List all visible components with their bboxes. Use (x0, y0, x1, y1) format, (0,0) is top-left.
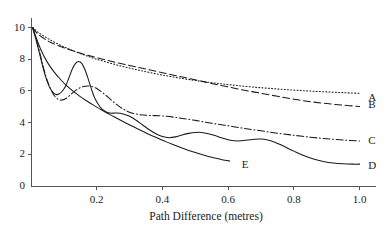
y-tick-2: 2 (20, 148, 26, 159)
x-tick-1.0: 1.0 (340, 194, 380, 205)
y-tick-8: 8 (20, 53, 26, 64)
series-curve-A (33, 28, 360, 94)
x-tick-0.6: 0.6 (208, 194, 248, 205)
x-axis-title: Path Difference (metres) (0, 211, 388, 223)
series-curve-C (33, 28, 360, 141)
x-tick-0.4: 0.4 (142, 194, 182, 205)
y-tick-6: 6 (20, 85, 26, 96)
series-curve-B (33, 28, 360, 107)
y-tick-0: 0 (20, 180, 26, 191)
y-tick-10: 10 (14, 22, 25, 33)
x-tick-0.8: 0.8 (274, 194, 314, 205)
series-label-B: B (368, 99, 375, 110)
series-label-D: D (368, 160, 376, 171)
series-curve-D (33, 28, 360, 165)
series-label-E: E (242, 159, 249, 170)
x-tick-0.2: 0.2 (77, 194, 117, 205)
series-label-C: C (368, 135, 375, 146)
chart-plot-area (0, 0, 388, 229)
y-tick-4: 4 (20, 117, 26, 128)
chart-container: 0246810 0.20.40.60.81.0 ABCDE Path Diffe… (0, 0, 388, 229)
chart-series-lines (33, 28, 360, 165)
chart-axes (28, 18, 377, 190)
